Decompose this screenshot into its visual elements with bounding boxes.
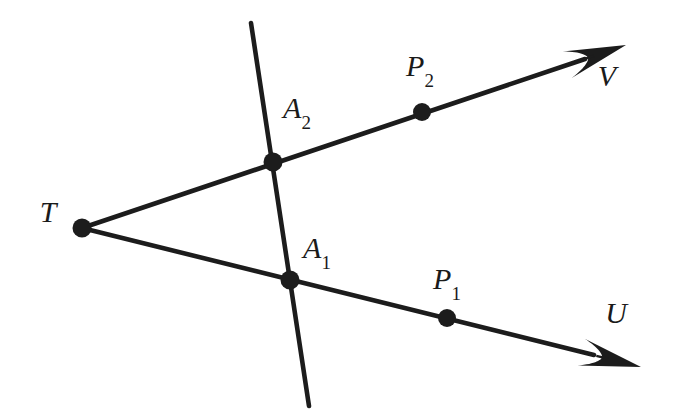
label-A1-subscript: 1 (321, 252, 331, 273)
ray-tv-shaft (82, 59, 585, 228)
label-V-text: V (598, 59, 616, 92)
point-marker-A2 (264, 153, 283, 172)
label-U-text: U (605, 296, 627, 329)
label-A2-subscript: 2 (301, 112, 311, 133)
label-V: V (598, 61, 616, 91)
label-P2-subscript: 2 (424, 70, 434, 91)
transversal-line (251, 23, 309, 406)
label-A1: A1 (303, 233, 331, 268)
label-P1-subscript: 1 (451, 283, 461, 304)
geometry-diagram: T A2 A1 P2 P1 V U (0, 0, 676, 416)
label-A1-base: A (303, 231, 321, 264)
label-P1: P1 (433, 264, 461, 299)
point-marker-A1 (281, 271, 300, 290)
point-marker-P1 (438, 309, 456, 327)
label-T: T (40, 197, 57, 227)
label-T-text: T (40, 195, 57, 228)
point-marker-T (73, 219, 92, 238)
point-marker-P2 (413, 103, 431, 121)
label-A2: A2 (283, 93, 311, 128)
label-U: U (605, 298, 627, 328)
label-P1-base: P (433, 262, 451, 295)
label-P2-base: P (406, 49, 424, 82)
diagram-canvas (0, 0, 676, 416)
arrowhead-v-icon (563, 32, 631, 78)
ray-tu-shaft (82, 228, 594, 355)
arrowhead-u-icon (577, 338, 644, 380)
label-A2-base: A (283, 91, 301, 124)
label-P2: P2 (406, 51, 434, 86)
